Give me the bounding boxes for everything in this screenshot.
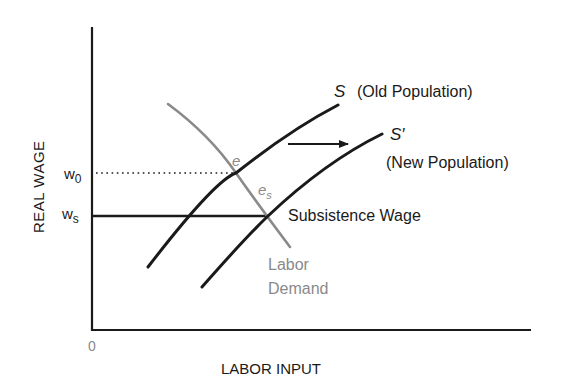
point-e-label: e [232,152,240,169]
s-old-symbol: S [334,82,346,101]
origin-label: 0 [88,338,96,354]
s-new-description: (New Population) [386,154,509,171]
labor-demand-label-line2: Demand [268,280,328,297]
s-old-description: (Old Population) [357,83,473,100]
x-axis-label: LABOR INPUT [221,360,321,377]
es-sub: s [266,189,272,201]
w0-label: w0 [63,165,82,186]
ws-sub: s [73,212,79,226]
y-axis-label: REAL WAGE [30,140,47,233]
ws-label: ws [61,205,79,226]
chart-canvas: REAL WAGE LABOR INPUT 0 w0 ws S (Old Pop… [0,0,564,388]
ws-main: w [61,205,73,222]
labor-demand-label-line1: Labor [268,256,310,273]
s-new-symbol: S′ [390,125,405,144]
point-es-label: es [258,181,272,201]
subsistence-wage-label: Subsistence Wage [288,207,421,224]
w0-main: w [63,165,75,182]
w0-sub: 0 [75,172,82,186]
es-main: e [258,181,266,198]
